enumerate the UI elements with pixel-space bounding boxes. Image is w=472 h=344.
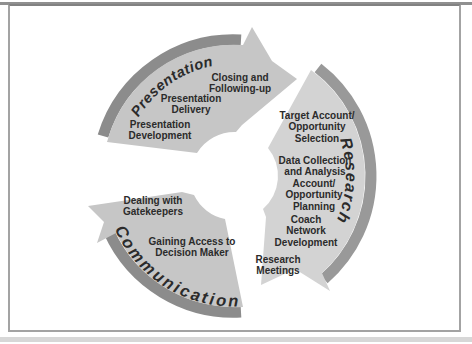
scan-band-bottom bbox=[0, 337, 472, 342]
cycle-arrows-graphic: Presentation Research Communication bbox=[0, 0, 472, 344]
cycle-diagram-figure: Presentation Research Communication Clos… bbox=[0, 0, 472, 344]
